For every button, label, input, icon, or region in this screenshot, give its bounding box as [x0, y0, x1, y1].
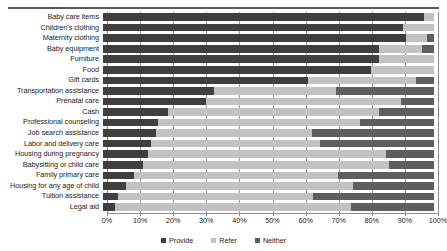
bar-segment-refer [371, 66, 434, 74]
bar-segment-refer [206, 98, 401, 106]
bar-segment-refer [158, 119, 360, 127]
category-label: Maternity clothing [0, 33, 103, 44]
bar-segment-neither [336, 87, 434, 95]
bar-segment-refer [156, 129, 312, 137]
chart-row: Gift cards [0, 75, 447, 86]
bar-segment-neither [320, 140, 434, 148]
bar-segment-refer [379, 45, 422, 53]
bar-segment-provide [103, 24, 403, 32]
category-label: Labor and delivery care [0, 139, 103, 150]
chart-row: Legal aid [0, 202, 447, 213]
category-label: Job search assistance [0, 128, 103, 139]
x-axis-tick-label: 60% [298, 216, 312, 225]
category-label: Prenatal care [0, 96, 103, 107]
stacked-bar [103, 161, 434, 169]
bar-segment-refer [406, 34, 428, 42]
bar-track [103, 191, 434, 202]
bar-segment-refer [168, 108, 380, 116]
legend-swatch-icon [161, 238, 166, 243]
chart-row: Babysitting or child care [0, 160, 447, 171]
bar-track [103, 23, 434, 34]
legend-swatch-icon [255, 238, 260, 243]
chart-row: Job search assistance [0, 128, 447, 139]
stacked-bar [103, 129, 434, 137]
bar-segment-refer [148, 150, 386, 158]
legend-item[interactable]: Provide [161, 236, 193, 245]
legend-item[interactable]: Refer [211, 236, 237, 245]
bar-segment-refer [126, 182, 353, 190]
chart-rows: Baby care itemsChildren's clothingMatern… [0, 12, 447, 212]
stacked-bar [103, 34, 434, 42]
x-axis-tick-label: 80% [365, 216, 379, 225]
bar-track [103, 149, 434, 160]
bar-track [103, 12, 434, 23]
stacked-bar [103, 45, 434, 53]
x-axis-tick-label: 0% [102, 216, 112, 225]
bar-segment-refer [115, 203, 352, 211]
bar-segment-refer [118, 193, 313, 201]
x-axis-tick [339, 213, 340, 216]
x-axis-tick-label: 10% [133, 216, 147, 225]
legend-label: Refer [219, 236, 237, 245]
bar-segment-provide [103, 98, 206, 106]
bar-segment-refer [134, 172, 338, 180]
bar-segment-neither [353, 182, 434, 190]
bar-segment-provide [103, 87, 214, 95]
x-axis-tick-labels: 0%10%20%30%40%50%60%70%80%90%100% [0, 216, 447, 228]
chart-row: Prenatal care [0, 96, 447, 107]
category-label: Professional counseling [0, 117, 103, 128]
x-axis-tick-label: 20% [166, 216, 180, 225]
bar-segment-provide [103, 129, 156, 137]
category-label: Housing during pregnancy [0, 149, 103, 160]
chart-row: Housing for any age of child [0, 181, 447, 192]
x-axis-tick-label: 70% [331, 216, 345, 225]
legend-swatch-icon [211, 238, 216, 243]
bar-track [103, 139, 434, 150]
bar-segment-provide [103, 119, 158, 127]
x-axis-tick-label: 30% [199, 216, 213, 225]
bar-segment-provide [103, 45, 379, 53]
chart-row: Cash [0, 107, 447, 118]
bar-segment-provide [103, 140, 151, 148]
category-label: Babysitting or child care [0, 160, 103, 171]
bar-track [103, 33, 434, 44]
chart-row: Children's clothing [0, 23, 447, 34]
bar-track [103, 86, 434, 97]
category-label: Furniture [0, 54, 103, 65]
bar-segment-provide [103, 172, 134, 180]
category-label: Baby care items [0, 12, 103, 23]
x-axis-tick [438, 213, 439, 216]
legend-item[interactable]: Neither [255, 236, 286, 245]
bar-segment-provide [103, 66, 371, 74]
bar-track [103, 170, 434, 181]
bar-segment-neither [379, 108, 434, 116]
chart-row: Family primary care [0, 170, 447, 181]
legend-label: Provide [169, 236, 193, 245]
chart-row: Baby care items [0, 12, 447, 23]
bar-track [103, 181, 434, 192]
x-axis-tick-label: 100% [429, 216, 447, 225]
stacked-bar [103, 119, 434, 127]
bar-segment-neither [312, 129, 434, 137]
bar-track [103, 128, 434, 139]
stacked-bar [103, 150, 434, 158]
stacked-bar [103, 77, 434, 85]
x-axis-tick-label: 50% [265, 216, 279, 225]
bar-segment-provide [103, 77, 308, 85]
stacked-bar [103, 108, 434, 116]
bar-segment-refer [143, 161, 390, 169]
category-label: Housing for any age of child [0, 181, 103, 192]
stacked-bar-chart: Baby care itemsChildren's clothingMatern… [0, 0, 447, 251]
stacked-bar [103, 193, 434, 201]
bar-segment-neither [401, 98, 434, 106]
x-axis-tick [107, 213, 108, 216]
bar-segment-neither [313, 193, 434, 201]
x-axis-tick [239, 213, 240, 216]
category-label: Baby equipment [0, 44, 103, 55]
bar-segment-refer [403, 24, 434, 32]
header-rule [8, 7, 439, 9]
bar-segment-provide [103, 34, 406, 42]
stacked-bar [103, 182, 434, 190]
x-axis-tick [306, 213, 307, 216]
category-label: Children's clothing [0, 23, 103, 34]
